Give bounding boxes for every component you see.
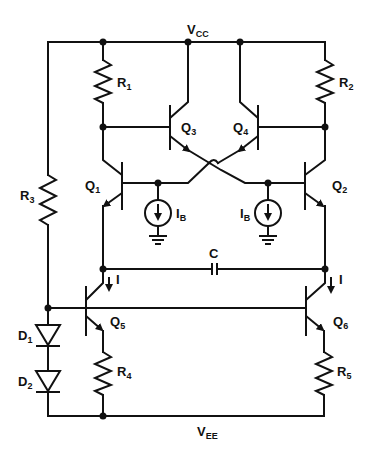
resistor-r4: [95, 352, 111, 420]
current-source-ib-right: [255, 180, 281, 245]
c-label: C: [209, 246, 219, 261]
bias-line: [45, 305, 307, 312]
transistor-q5: [86, 269, 103, 352]
q1-label: Q1: [85, 178, 100, 195]
r2-label: R2: [339, 75, 353, 92]
i-left-label: I: [116, 272, 120, 287]
capacitor-c: [100, 263, 329, 275]
transistor-q4: [239, 42, 325, 151]
current-source-ib-left: [145, 180, 171, 245]
r4-label: R4: [117, 364, 131, 381]
resistor-r1: [95, 42, 111, 131]
transistor-q6: [306, 269, 325, 352]
transistor-q3: [103, 42, 189, 151]
resistor-r5: [316, 352, 332, 416]
r1-label: R1: [117, 75, 131, 92]
vcc-rail: [48, 39, 325, 46]
d1-label: D1: [18, 328, 32, 345]
q6-label: Q6: [333, 314, 348, 331]
transistor-q1: [103, 127, 122, 269]
q5-label: Q5: [110, 314, 125, 331]
q4-label: Q4: [233, 120, 248, 137]
q3-label: Q3: [181, 120, 196, 137]
diode-d2: [36, 371, 60, 416]
ib-right-label: IB: [240, 206, 251, 223]
resistor-r3: [40, 42, 56, 308]
cross-coupling: [122, 150, 305, 183]
transistor-q2: [305, 127, 325, 269]
d2-label: D2: [18, 374, 32, 391]
r5-label: R5: [337, 364, 351, 381]
resistor-r2: [317, 42, 333, 131]
i-right-label: I: [339, 272, 343, 287]
circuit-schematic: VCC R3 R1 R2 Q3 Q4: [0, 0, 370, 459]
r3-label: R3: [20, 188, 34, 205]
diode-d1: [36, 308, 60, 371]
q2-label: Q2: [332, 178, 347, 195]
ib-left-label: IB: [176, 206, 187, 223]
vee-label: VEE: [197, 424, 218, 441]
vcc-label: VCC: [187, 22, 209, 39]
